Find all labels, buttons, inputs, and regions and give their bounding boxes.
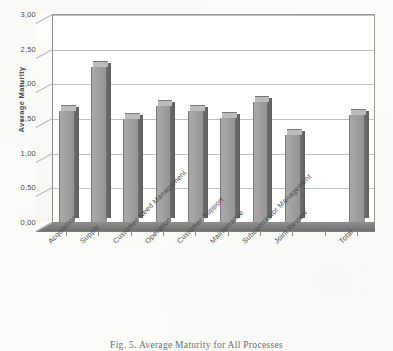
x-tick-mark bbox=[357, 231, 358, 236]
bar-top-face bbox=[351, 109, 366, 115]
y-tick-label: 3,00 bbox=[6, 10, 36, 19]
bar-side-face bbox=[267, 98, 272, 218]
bar-top-face bbox=[190, 105, 205, 111]
bar-front-face bbox=[253, 102, 269, 222]
bar-side-face bbox=[364, 111, 369, 218]
bar-front-face bbox=[188, 111, 204, 222]
y-tick-label: 1,50 bbox=[6, 114, 36, 123]
bar bbox=[285, 130, 300, 222]
bar-side-face bbox=[106, 63, 111, 218]
bar bbox=[349, 110, 364, 222]
bar-top-face bbox=[93, 61, 108, 67]
bar-top-face bbox=[287, 129, 302, 135]
bar-front-face bbox=[123, 119, 139, 222]
y-tick-label: 0,00 bbox=[6, 218, 36, 227]
bar bbox=[220, 113, 235, 222]
x-tick-mark bbox=[66, 231, 67, 236]
x-tick-mark bbox=[325, 231, 326, 236]
figure-caption: Fig. 5. Average Maturity for All Process… bbox=[0, 340, 393, 351]
x-tick-mark bbox=[292, 231, 293, 236]
bar-chart: Average Maturity 0,000,501,001,502,002,5… bbox=[0, 0, 393, 330]
bar bbox=[253, 97, 268, 222]
bar bbox=[91, 62, 106, 222]
bar-top-face bbox=[61, 105, 76, 111]
bar-top-face bbox=[255, 96, 270, 102]
bar-front-face bbox=[285, 135, 301, 222]
bar-side-face bbox=[138, 115, 143, 218]
x-tick-mark bbox=[163, 231, 164, 236]
bar-front-face bbox=[91, 67, 107, 222]
bar-side-face bbox=[203, 107, 208, 218]
bar-front-face bbox=[349, 115, 365, 222]
y-tick-label: 2,50 bbox=[6, 44, 36, 53]
bar bbox=[123, 114, 138, 222]
bar-front-face bbox=[59, 111, 75, 222]
bar-series bbox=[52, 14, 375, 222]
bar bbox=[188, 106, 203, 222]
bar-top-face bbox=[125, 113, 140, 119]
x-tick-mark bbox=[195, 231, 196, 236]
bar-top-face bbox=[158, 100, 173, 106]
bar-front-face bbox=[220, 118, 236, 222]
bar-side-face bbox=[170, 102, 175, 218]
x-tick-mark bbox=[260, 231, 261, 236]
x-tick-mark bbox=[228, 231, 229, 236]
bar-side-face bbox=[74, 107, 79, 218]
bar bbox=[59, 106, 74, 222]
y-tick-label: 2,00 bbox=[6, 79, 36, 88]
y-axis-tick-labels: 0,000,501,001,502,002,503,00 bbox=[4, 0, 36, 330]
x-tick-mark bbox=[131, 231, 132, 236]
bar-top-face bbox=[222, 112, 237, 118]
bar-side-face bbox=[235, 114, 240, 218]
x-tick-mark bbox=[98, 231, 99, 236]
y-tick-label: 0,50 bbox=[6, 183, 36, 192]
y-tick-label: 1,00 bbox=[6, 148, 36, 157]
